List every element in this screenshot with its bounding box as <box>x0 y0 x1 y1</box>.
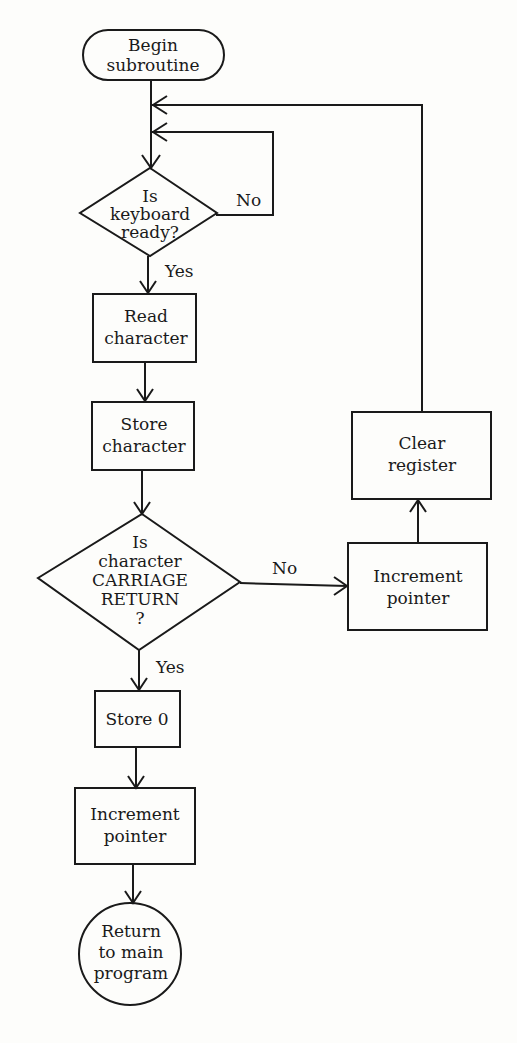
label-keyboard-no: No <box>236 190 261 210</box>
node-return-main-program: Return to main program <box>79 903 181 1005</box>
node-is-carriage-return: Is character CARRIAGE RETURN ? <box>38 514 240 650</box>
edge-clear-register-to-top <box>151 105 422 412</box>
clear-line-2: register <box>388 455 457 475</box>
node-increment-pointer-main: Increment pointer <box>75 788 195 864</box>
inc-loop-line-2: pointer <box>387 588 450 608</box>
read-line-2: character <box>104 328 188 348</box>
label-cr-yes: Yes <box>155 657 185 677</box>
return-line-3: program <box>94 963 169 983</box>
return-line-1: Return <box>101 921 161 941</box>
inc-loop-line-1: Increment <box>373 566 463 586</box>
edge-cr-no <box>240 583 347 586</box>
keyboard-line-1: Is <box>142 186 157 206</box>
cr-line-1: Is <box>132 532 147 552</box>
cr-line-5: ? <box>135 608 144 628</box>
cr-line-2: character <box>98 551 182 571</box>
clear-line-1: Clear <box>399 433 447 453</box>
store-line-1: Store <box>121 414 168 434</box>
node-clear-register: Clear register <box>352 412 491 499</box>
store-line-2: character <box>102 436 186 456</box>
inc-main-line-2: pointer <box>104 826 167 846</box>
label-keyboard-yes: Yes <box>164 261 194 281</box>
begin-line-2: subroutine <box>106 55 199 75</box>
begin-line-1: Begin <box>128 35 178 55</box>
node-store-zero: Store 0 <box>95 691 180 747</box>
return-line-2: to main <box>98 942 163 962</box>
node-keyboard-ready: Is keyboard ready? <box>80 168 217 256</box>
node-increment-pointer-loop: Increment pointer <box>348 543 487 630</box>
keyboard-line-3: ready? <box>121 222 179 242</box>
flowchart: Begin subroutine No Is keyboard ready? Y… <box>0 0 517 1043</box>
inc-main-line-1: Increment <box>90 804 180 824</box>
store-zero-line-1: Store 0 <box>105 709 168 729</box>
cr-line-4: RETURN <box>101 589 180 609</box>
cr-line-3: CARRIAGE <box>92 570 188 590</box>
node-read-character: Read character <box>93 294 196 362</box>
node-begin-subroutine: Begin subroutine <box>83 30 224 80</box>
read-line-1: Read <box>124 306 168 326</box>
keyboard-line-2: keyboard <box>110 204 190 224</box>
label-cr-no: No <box>272 558 297 578</box>
node-store-character: Store character <box>92 402 194 470</box>
